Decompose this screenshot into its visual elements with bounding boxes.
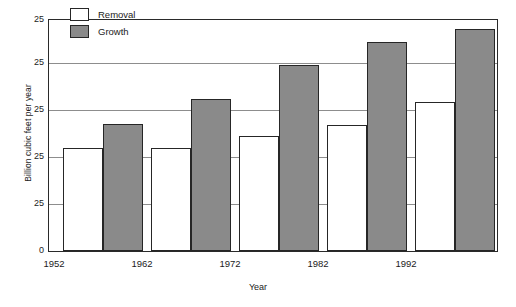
- bar-removal-1982: [327, 125, 367, 251]
- x-tick-label-1982: 1982: [273, 258, 363, 269]
- legend-label-growth: Growth: [98, 26, 129, 37]
- bar-chart-figure: Billion cubic feet per year 25 25 25 25 …: [0, 0, 516, 307]
- bar-removal-1972: [239, 136, 279, 251]
- bar-removal-1992: [415, 102, 455, 251]
- y-tick-label: 0: [18, 245, 44, 255]
- x-tick-label-1972: 1972: [185, 258, 275, 269]
- plot-area: [48, 19, 498, 252]
- bar-growth-1952: [103, 124, 143, 251]
- x-tick-label-1962: 1962: [97, 258, 187, 269]
- bar-growth-1982: [367, 42, 407, 251]
- bar-removal-1952: [63, 148, 103, 251]
- x-tick-label-1952: 1952: [9, 258, 99, 269]
- y-tick-label: 25: [18, 14, 44, 24]
- x-axis-title: Year: [0, 282, 516, 292]
- legend-swatch-removal-icon: [70, 8, 89, 21]
- bar-growth-1962: [191, 99, 231, 251]
- bar-growth-1972: [279, 65, 319, 251]
- y-tick-label: 25: [18, 57, 44, 67]
- y-tick-label: 25: [18, 104, 44, 114]
- y-tick-label: 25: [18, 151, 44, 161]
- gridline: [49, 63, 497, 64]
- y-tick-label: 25: [18, 198, 44, 208]
- bar-growth-1992: [455, 29, 495, 251]
- legend-swatch-growth-icon: [70, 25, 89, 38]
- x-tick-label-1992: 1992: [361, 258, 451, 269]
- legend-item-removal: Removal: [70, 6, 186, 23]
- legend-label-removal: Removal: [98, 9, 136, 20]
- bar-removal-1962: [151, 148, 191, 251]
- legend: Removal Growth: [64, 2, 192, 45]
- y-axis-title: Billion cubic feet per year: [23, 43, 33, 223]
- legend-item-growth: Growth: [70, 23, 186, 40]
